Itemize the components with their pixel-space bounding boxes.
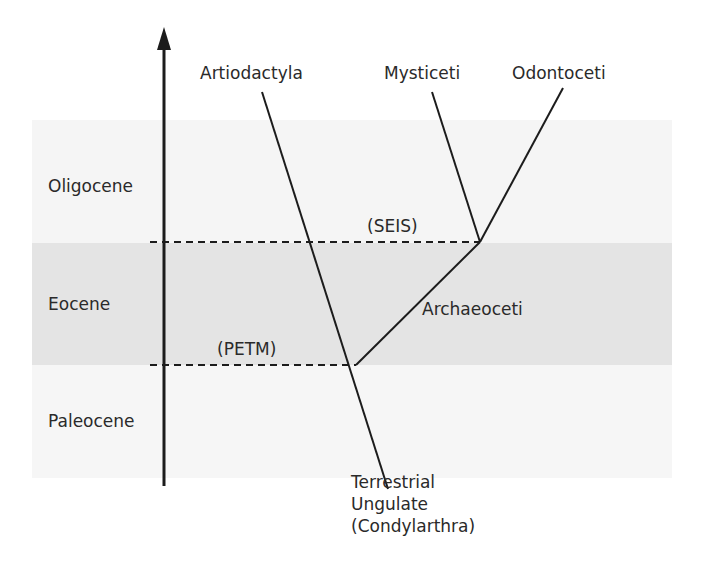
taxon-label-mysticeti: Mysticeti bbox=[384, 63, 460, 83]
epoch-label-oligocene: Oligocene bbox=[48, 176, 133, 196]
taxon-label-archaeoceti: Archaeoceti bbox=[422, 299, 523, 319]
taxon-label-artiodactyla: Artiodactyla bbox=[200, 63, 303, 83]
time-axis-arrow-icon bbox=[157, 27, 171, 50]
mysticeti-branch bbox=[432, 92, 480, 242]
event-label-seis: (SEIS) bbox=[367, 216, 418, 236]
taxon-label-odontoceti: Odontoceti bbox=[512, 63, 606, 83]
artiodactyla-branch bbox=[262, 92, 388, 489]
event-label-petm: (PETM) bbox=[217, 339, 276, 359]
epoch-label-paleocene: Paleocene bbox=[48, 411, 135, 431]
odontoceti-branch bbox=[480, 88, 563, 242]
taxon-label-ancestor: Terrestrial Ungulate (Condylarthra) bbox=[351, 471, 475, 537]
epoch-label-eocene: Eocene bbox=[48, 294, 110, 314]
